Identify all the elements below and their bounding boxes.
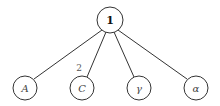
child-node-alpha: α xyxy=(184,76,208,100)
child-node-A: A xyxy=(13,76,37,100)
tree-diagram: 1 A C γ α 2 xyxy=(0,0,220,106)
edge-root-A xyxy=(34,30,102,79)
child-node-A-label: A xyxy=(20,83,28,94)
child-node-C-label: C xyxy=(78,83,86,94)
child-node-C: C xyxy=(70,76,94,100)
edge-root-alpha xyxy=(118,30,187,79)
root-node-label: 1 xyxy=(106,14,114,27)
child-node-gamma: γ xyxy=(127,76,151,100)
edge-weight-label: 2 xyxy=(76,63,82,73)
edges xyxy=(34,30,187,79)
child-node-alpha-label: α xyxy=(193,83,200,94)
root-node: 1 xyxy=(97,7,123,33)
child-node-gamma-label: γ xyxy=(136,83,142,94)
